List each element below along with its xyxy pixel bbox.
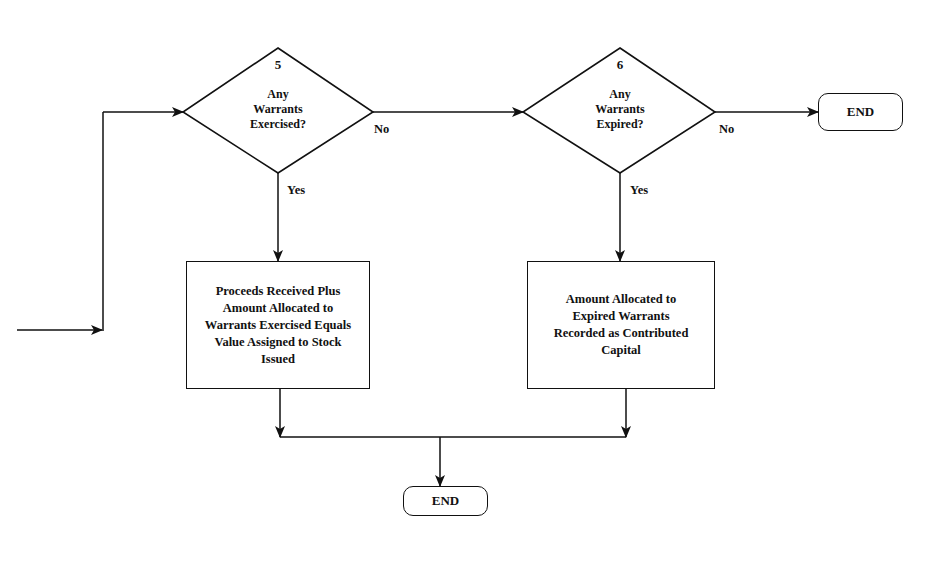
decision-6-line-1: Any (565, 87, 675, 102)
process-expired-line-3: Recorded as Contributed (554, 325, 689, 342)
flowchart-canvas: 5 Any Warrants Exercised? 6 Any Warrants… (0, 0, 952, 563)
edge-label-d6-no: No (719, 122, 734, 137)
process-exercised-text: Proceeds Received Plus Amount Allocated … (205, 283, 351, 368)
end-bottom-label: END (432, 493, 459, 509)
flowchart-lines (0, 0, 952, 563)
end-terminal-top: END (818, 93, 903, 131)
decision-5-line-1: Any (223, 87, 333, 102)
edge-label-d5-no: No (374, 122, 389, 137)
decision-6-line-2: Warrants (565, 102, 675, 117)
process-expired-line-2: Expired Warrants (554, 308, 689, 325)
process-expired-line-4: Capital (554, 342, 689, 359)
decision-5-line-2: Warrants (223, 102, 333, 117)
process-box-warrants-expired: Amount Allocated to Expired Warrants Rec… (527, 261, 715, 389)
process-box-warrants-exercised: Proceeds Received Plus Amount Allocated … (186, 261, 370, 389)
process-expired-text: Amount Allocated to Expired Warrants Rec… (554, 291, 689, 359)
decision-5-line-3: Exercised? (223, 117, 333, 132)
decision-6-line-3: Expired? (565, 117, 675, 132)
process-expired-line-1: Amount Allocated to (554, 291, 689, 308)
edge-label-d6-yes: Yes (630, 183, 648, 198)
decision-5-number: 5 (263, 57, 293, 73)
edge-label-d5-yes: Yes (287, 183, 305, 198)
process-exercised-line-2: Amount Allocated to (205, 300, 351, 317)
process-exercised-line-1: Proceeds Received Plus (205, 283, 351, 300)
process-exercised-line-3: Warrants Exercised Equals (205, 317, 351, 334)
end-top-label: END (847, 104, 874, 120)
decision-6-number: 6 (605, 57, 635, 73)
decision-5-label: Any Warrants Exercised? (223, 87, 333, 132)
process-exercised-line-4: Value Assigned to Stock (205, 334, 351, 351)
decision-6-label: Any Warrants Expired? (565, 87, 675, 132)
process-exercised-line-5: Issued (205, 351, 351, 368)
end-terminal-bottom: END (403, 486, 488, 516)
